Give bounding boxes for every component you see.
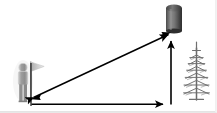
- person-icon: [13, 60, 33, 102]
- double-arrow-icon: [34, 35, 169, 98]
- cylinder-tower-icon: [166, 5, 182, 34]
- slant-arrowhead-right: [161, 32, 171, 38]
- slant-arrowhead-left: [31, 94, 42, 100]
- fir-tree-icon: [184, 42, 210, 100]
- surveying-diagram: [0, 0, 217, 113]
- diagram-canvas: Surveying sight-line diagram: [0, 0, 217, 113]
